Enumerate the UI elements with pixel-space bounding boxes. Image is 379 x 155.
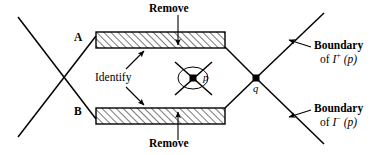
- cone-segment-a-to-q: [225, 47, 256, 78]
- boundary-future-argument: (p): [344, 53, 357, 65]
- figure-canvas: Remove Remove A B Identify p q Boundary …: [0, 0, 379, 155]
- label-identify: Identify: [95, 71, 131, 84]
- label-remove-top: Remove: [149, 2, 189, 15]
- rectangle-b-region: [96, 108, 225, 124]
- boundary-past-superscript: −: [336, 114, 341, 123]
- boundary-past-prefix: of: [320, 116, 332, 128]
- boundary-future-superscript: +: [336, 51, 341, 60]
- point-q-dot: [253, 75, 260, 82]
- cone-line-lower-left-to-upper-right: [18, 36, 96, 137]
- rectangle-a-region: [96, 32, 225, 48]
- label-region-a: A: [74, 31, 82, 44]
- rectangle-b-hatch-fill: [96, 108, 225, 124]
- label-boundary-past: Boundary of I− (p): [314, 102, 363, 129]
- boundary-past-argument: (p): [344, 116, 357, 128]
- point-p-dot: [190, 75, 197, 82]
- leader-identify-to-rectangle-a: [126, 51, 144, 69]
- label-boundary-future: Boundary of I+ (p): [314, 39, 363, 66]
- label-point-q: q: [253, 83, 258, 95]
- label-region-b: B: [74, 105, 82, 118]
- label-boundary-past-line2: of I− (p): [314, 115, 363, 129]
- label-remove-bottom: Remove: [149, 137, 189, 150]
- diagram-svg: [0, 0, 379, 155]
- leader-identify-to-rectangle-b: [126, 87, 144, 105]
- cone-segment-b-to-q: [225, 78, 256, 108]
- rectangle-a-hatch-fill: [96, 32, 225, 48]
- label-point-p: p: [203, 72, 208, 84]
- cone-line-upper-left-to-lower-right: [18, 17, 96, 119]
- label-boundary-future-line2: of I+ (p): [314, 52, 363, 66]
- boundary-future-prefix: of: [320, 53, 332, 65]
